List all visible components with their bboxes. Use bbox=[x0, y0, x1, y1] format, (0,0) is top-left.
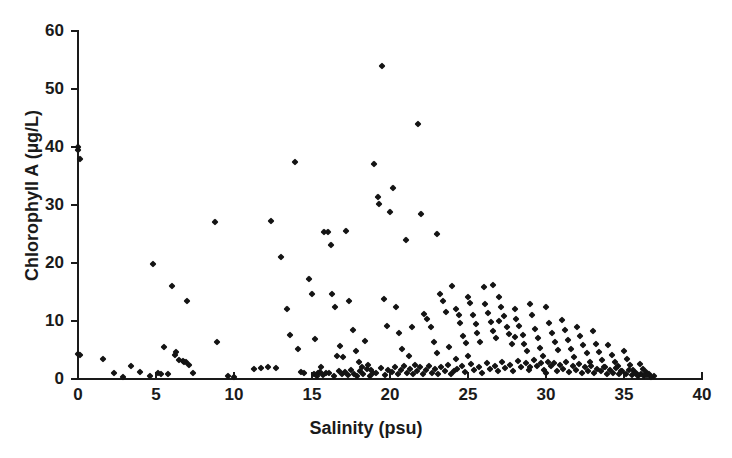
data-point bbox=[383, 322, 390, 329]
data-point bbox=[457, 320, 464, 327]
data-point bbox=[160, 343, 167, 350]
data-point bbox=[466, 299, 473, 306]
data-point bbox=[563, 359, 570, 366]
x-tick-label: 35 bbox=[599, 386, 649, 403]
data-point bbox=[439, 297, 446, 304]
y-tick-label: 40 bbox=[18, 138, 64, 155]
data-point bbox=[338, 371, 345, 378]
data-point bbox=[549, 329, 556, 336]
data-point bbox=[74, 147, 81, 154]
data-point bbox=[493, 335, 500, 342]
data-point bbox=[99, 356, 106, 363]
data-point bbox=[608, 351, 615, 358]
data-point bbox=[494, 368, 501, 375]
data-point bbox=[157, 371, 164, 378]
data-point bbox=[542, 303, 549, 310]
data-point bbox=[496, 293, 503, 300]
data-point bbox=[349, 326, 356, 333]
plot-area bbox=[78, 31, 702, 379]
data-point bbox=[503, 323, 510, 330]
data-point bbox=[415, 120, 422, 127]
data-point bbox=[496, 317, 503, 324]
data-point bbox=[257, 364, 264, 371]
data-point bbox=[433, 230, 440, 237]
data-point bbox=[516, 322, 523, 329]
data-point bbox=[542, 370, 549, 377]
y-tick-label: 10 bbox=[18, 312, 64, 329]
data-point bbox=[539, 352, 546, 359]
data-point bbox=[430, 338, 437, 345]
data-point bbox=[265, 364, 272, 371]
data-point bbox=[301, 369, 308, 376]
data-point bbox=[110, 370, 117, 377]
data-point bbox=[405, 352, 412, 359]
data-point bbox=[508, 340, 515, 347]
data-point bbox=[343, 228, 350, 235]
data-point bbox=[605, 342, 612, 349]
data-point bbox=[577, 333, 584, 340]
data-point bbox=[190, 370, 197, 377]
data-point bbox=[452, 355, 459, 362]
x-tick-label: 10 bbox=[209, 386, 259, 403]
data-point bbox=[510, 367, 517, 374]
data-point bbox=[567, 345, 574, 352]
data-point bbox=[513, 315, 520, 322]
data-point bbox=[480, 284, 487, 291]
data-point bbox=[251, 365, 258, 372]
data-point bbox=[212, 219, 219, 226]
data-point bbox=[149, 260, 156, 267]
data-point bbox=[268, 218, 275, 225]
data-point bbox=[580, 342, 587, 349]
data-point bbox=[449, 283, 456, 290]
data-point bbox=[294, 345, 301, 352]
data-point bbox=[361, 337, 368, 344]
x-tick-label: 40 bbox=[677, 386, 727, 403]
data-point bbox=[536, 344, 543, 351]
x-tick-label: 15 bbox=[287, 386, 337, 403]
data-point bbox=[277, 254, 284, 261]
data-point bbox=[371, 161, 378, 168]
data-point bbox=[500, 313, 507, 320]
y-tick-label: 30 bbox=[18, 196, 64, 213]
data-point bbox=[478, 369, 485, 376]
data-point bbox=[329, 290, 336, 297]
data-point bbox=[146, 373, 153, 380]
data-point bbox=[532, 326, 539, 333]
data-point bbox=[291, 158, 298, 165]
data-point bbox=[446, 343, 453, 350]
x-tick-label: 0 bbox=[53, 386, 103, 403]
data-point bbox=[482, 300, 489, 307]
data-point bbox=[386, 208, 393, 215]
data-point bbox=[308, 290, 315, 297]
x-tick-label: 20 bbox=[365, 386, 415, 403]
data-point bbox=[393, 304, 400, 311]
data-point bbox=[497, 304, 504, 311]
data-point bbox=[380, 295, 387, 302]
data-point bbox=[76, 155, 83, 162]
x-tick-label: 5 bbox=[131, 386, 181, 403]
data-point bbox=[511, 306, 518, 313]
data-point bbox=[424, 315, 431, 322]
data-point bbox=[463, 339, 470, 346]
data-point bbox=[472, 321, 479, 328]
data-point bbox=[461, 368, 468, 375]
data-point bbox=[346, 298, 353, 305]
data-point bbox=[273, 364, 280, 371]
data-point bbox=[312, 335, 319, 342]
data-point bbox=[555, 346, 562, 353]
data-point bbox=[592, 341, 599, 348]
data-point bbox=[324, 229, 331, 236]
data-point bbox=[527, 300, 534, 307]
data-point bbox=[287, 331, 294, 338]
data-point bbox=[433, 350, 440, 357]
data-point bbox=[464, 352, 471, 359]
data-point bbox=[460, 332, 467, 339]
data-point bbox=[574, 323, 581, 330]
data-point bbox=[455, 312, 462, 319]
data-point bbox=[408, 323, 415, 330]
x-tick-label: 25 bbox=[443, 386, 493, 403]
data-point bbox=[168, 283, 175, 290]
data-point bbox=[213, 338, 220, 345]
y-tick-label: 60 bbox=[18, 22, 64, 39]
data-point bbox=[402, 236, 409, 243]
